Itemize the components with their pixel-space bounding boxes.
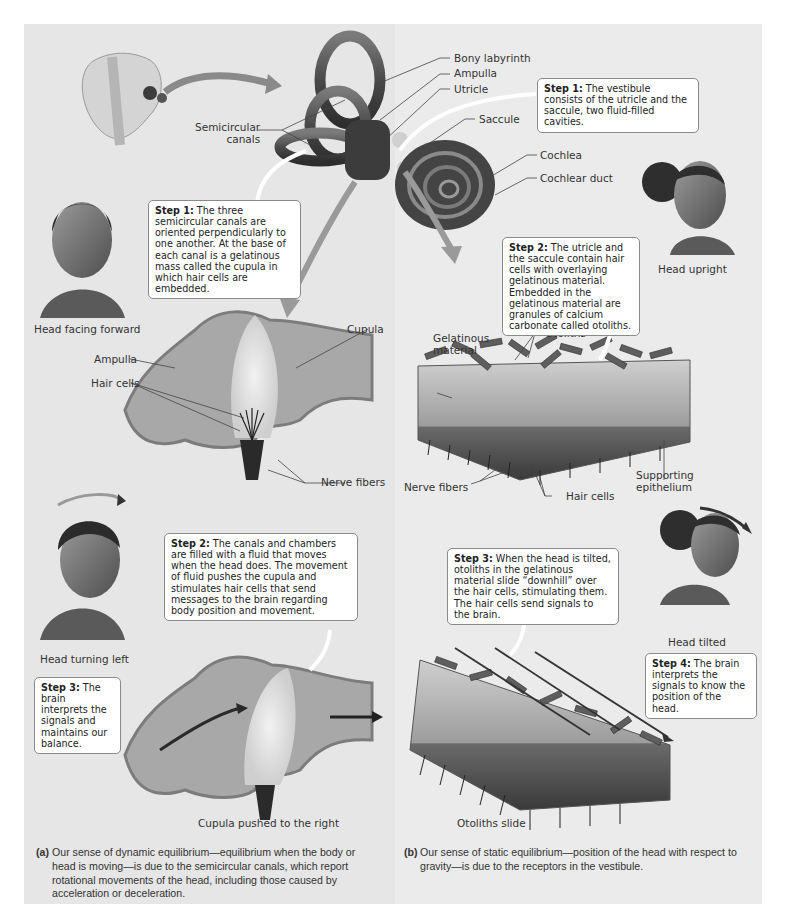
caption-b: (b) Our sense of static equilibrium—posi… <box>404 846 756 874</box>
label-semicircular-canals: Semicircular canals <box>195 121 260 145</box>
step-callout-b1: Step 1: The vestibule consists of the ut… <box>537 78 699 133</box>
label-utricle: Utricle <box>454 83 488 95</box>
ampulla-detail-illustration <box>125 312 372 480</box>
outer-ear-illustration <box>82 53 167 145</box>
step-title: Step 2: <box>171 538 210 549</box>
label-gelatinous-material: Gelatinous material <box>433 332 489 356</box>
step-title: Step 1: <box>544 83 583 94</box>
illustrations <box>0 0 791 916</box>
otolith-slide-illustration <box>410 648 674 830</box>
label-head-turning-left: Head turning left <box>40 653 129 665</box>
label-head-tilted: Head tilted <box>668 636 726 648</box>
step-title: Step 3: <box>41 682 80 693</box>
caption-tag: (b) <box>404 846 418 860</box>
label-head-facing-forward: Head facing forward <box>34 323 141 335</box>
label-cochlea: Cochlea <box>540 149 582 161</box>
label-cupula: Cupula <box>347 323 384 335</box>
step-callout-a3: Step 3: The brain interprets the signals… <box>34 677 121 754</box>
caption-a: (a) Our sense of dynamic equilibrium—equ… <box>36 846 376 901</box>
caption-text: Our sense of dynamic equilibrium—equilib… <box>36 846 376 901</box>
step-title: Step 2: <box>509 242 548 253</box>
label-head-upright: Head upright <box>658 263 727 275</box>
step-title: Step 4: <box>652 658 691 669</box>
step-callout-b3: Step 3: When the head is tilted, otolith… <box>447 548 619 625</box>
label-otoliths-slide: Otoliths slide <box>457 817 526 829</box>
label-ampulla: Ampulla <box>94 353 137 365</box>
step-title: Step 1: <box>155 205 194 216</box>
label-bony-labyrinth: Bony labyrinth <box>454 52 531 64</box>
step-text: The three semicircular canals are orient… <box>155 205 286 294</box>
label-supporting-epithelium: Supporting epithelium <box>636 469 694 493</box>
inner-ear-illustration <box>280 36 495 230</box>
step-text: The canals and chambers are filled with … <box>171 538 348 616</box>
label-nerve-fibers-a: Nerve fibers <box>321 476 385 488</box>
step-title: Step 3: <box>454 553 493 564</box>
head-upright-illustration <box>642 161 735 255</box>
step-callout-b2: Step 2: The utricle and the saccule cont… <box>502 237 640 336</box>
caption-tag: (a) <box>36 846 49 860</box>
head-facing-forward-illustration <box>40 202 125 318</box>
label-cupula-pushed: Cupula pushed to the right <box>198 817 339 829</box>
step-callout-b4: Step 4: The brain interprets the signals… <box>645 653 757 719</box>
label-ampulla-inner-ear: Ampulla <box>454 67 497 79</box>
step-text: The utricle and the saccule contain hair… <box>509 242 631 331</box>
label-hair-cells-b: Hair cells <box>566 490 614 502</box>
label-nerve-fibers-b: Nerve fibers <box>404 481 468 493</box>
head-tilted-illustration <box>660 508 752 605</box>
step-callout-a1: Step 1: The three semicircular canals ar… <box>148 200 301 299</box>
caption-text: Our sense of static equilibrium—position… <box>404 846 756 874</box>
step-callout-a2: Step 2: The canals and chambers are fill… <box>164 533 358 621</box>
ampulla-pushed-illustration <box>125 657 372 820</box>
label-saccule: Saccule <box>479 113 520 125</box>
label-cochlear-duct: Cochlear duct <box>540 172 613 184</box>
head-turning-left-illustration <box>40 494 126 640</box>
label-hair-cells-a: Hair cells <box>91 377 139 389</box>
